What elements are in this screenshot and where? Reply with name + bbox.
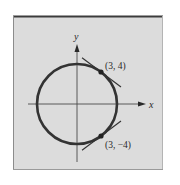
- y-axis-label: y: [73, 31, 79, 42]
- circle-tangent-figure: x y (3, 4) (3, −4): [0, 0, 180, 185]
- panel-background: [13, 16, 163, 170]
- diagram-canvas: x y (3, 4) (3, −4): [0, 0, 180, 185]
- point-label-upper: (3, 4): [105, 61, 126, 72]
- x-axis-label: x: [148, 99, 154, 110]
- point-label-lower: (3, −4): [105, 140, 131, 151]
- point-marker-upper: [98, 69, 103, 74]
- point-marker-lower: [98, 133, 103, 138]
